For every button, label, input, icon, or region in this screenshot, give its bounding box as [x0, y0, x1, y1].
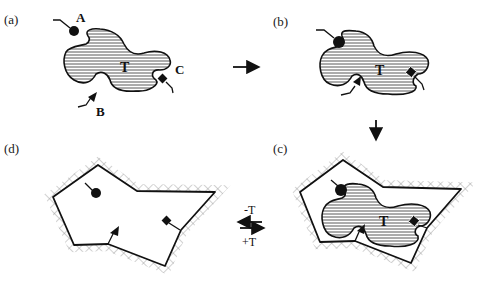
imprinting-diagram: (a) T A B C (b) T — [0, 0, 499, 295]
template-label-b: T — [375, 63, 385, 78]
panel-a-label: (a) — [4, 12, 18, 27]
circle-icon — [69, 26, 79, 36]
panel-a: (a) T A B C — [4, 10, 184, 119]
square-icon — [158, 74, 168, 84]
triangle-icon — [353, 76, 361, 86]
panel-d: (d) — [4, 141, 215, 266]
equilibrium-arrows: -T +T — [240, 203, 262, 249]
add-template-label: +T — [242, 235, 257, 249]
circle-icon — [91, 188, 101, 198]
template-label-a: T — [120, 60, 130, 75]
monomer-b-free: B — [78, 92, 105, 119]
monomer-a-label: A — [76, 10, 86, 25]
panel-b-label: (b) — [273, 14, 288, 29]
panel-d-label: (d) — [4, 141, 19, 156]
remove-template-label: -T — [244, 203, 256, 217]
panel-c-label: (c) — [273, 141, 287, 156]
monomer-b-label: B — [96, 104, 105, 119]
monomer-c-label: C — [175, 62, 184, 77]
circle-icon — [333, 36, 345, 48]
panel-b: (b) T — [273, 14, 428, 95]
template-label-c: T — [379, 214, 389, 229]
panel-c: (c) T — [273, 141, 461, 263]
circle-icon — [335, 184, 347, 196]
monomer-a-free: A — [53, 10, 86, 36]
monomer-a-bound — [316, 30, 345, 48]
template-blob-a — [64, 29, 170, 91]
